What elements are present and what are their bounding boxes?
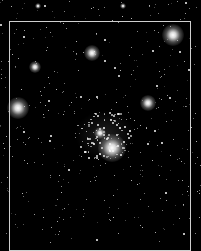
star <box>0 125 1 126</box>
star <box>150 15 151 16</box>
star <box>194 64 195 65</box>
star <box>1 182 2 183</box>
star <box>98 9 99 10</box>
star <box>99 15 100 16</box>
star <box>44 5 46 7</box>
star <box>193 118 194 119</box>
star <box>196 141 197 142</box>
star <box>195 113 196 114</box>
star <box>149 6 150 7</box>
star <box>2 33 3 34</box>
star <box>22 8 23 9</box>
star <box>16 18 17 19</box>
star <box>184 18 185 19</box>
star <box>191 48 192 49</box>
star <box>93 7 94 8</box>
star <box>2 0 3 1</box>
bright-star <box>35 3 41 9</box>
star <box>197 157 198 158</box>
star <box>52 11 53 12</box>
star <box>122 16 123 17</box>
star <box>69 1 70 2</box>
star <box>7 177 8 178</box>
star <box>149 5 150 6</box>
star <box>1 69 2 70</box>
star <box>6 136 7 137</box>
star <box>155 4 156 5</box>
star <box>24 3 25 4</box>
star <box>1 61 2 62</box>
star <box>3 155 4 156</box>
star <box>171 3 172 4</box>
star <box>37 10 38 11</box>
star <box>0 24 2 26</box>
star <box>192 152 193 153</box>
star <box>189 8 190 9</box>
star <box>185 13 186 14</box>
image-frame-border <box>9 21 191 251</box>
star <box>195 233 196 234</box>
star <box>154 7 155 8</box>
star <box>74 16 75 17</box>
star <box>64 11 65 12</box>
star <box>199 193 200 194</box>
star <box>4 148 5 149</box>
star <box>5 87 6 88</box>
star <box>168 4 169 5</box>
star <box>6 233 7 234</box>
star <box>0 2 1 3</box>
star <box>3 143 4 144</box>
star <box>1 74 2 75</box>
star <box>199 190 200 191</box>
star <box>54 17 55 18</box>
star <box>195 46 196 47</box>
star <box>0 126 1 127</box>
star <box>200 165 201 166</box>
star <box>17 13 18 14</box>
star <box>197 191 198 192</box>
star <box>158 13 159 14</box>
bright-star <box>120 3 126 9</box>
star <box>195 163 196 164</box>
star <box>11 6 12 7</box>
star <box>200 185 201 186</box>
star <box>185 2 187 4</box>
star <box>5 77 6 78</box>
star <box>85 18 86 19</box>
star <box>177 1 178 2</box>
star <box>1 78 2 79</box>
star <box>196 7 197 8</box>
star <box>199 217 200 218</box>
star <box>104 7 105 8</box>
star <box>131 18 132 19</box>
